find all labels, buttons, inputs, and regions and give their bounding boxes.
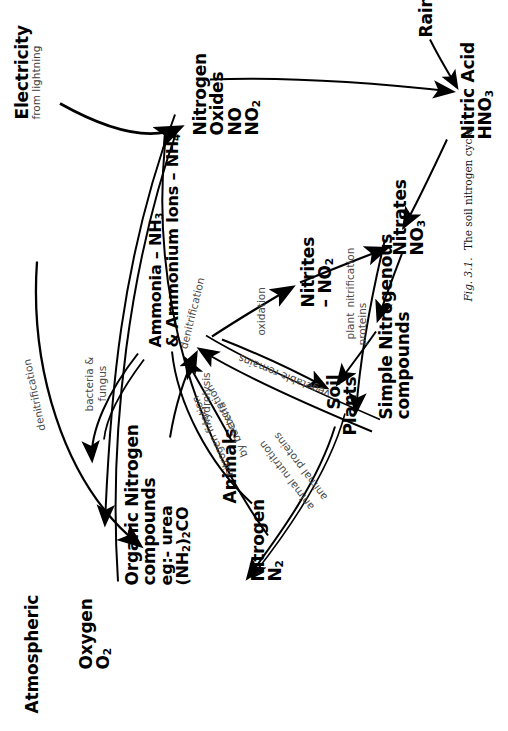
node-rain: Rain (418, 0, 435, 37)
edge-label-bacteria-fungus-2: fungus (96, 365, 108, 401)
node-electricity-line2: from lightning (31, 25, 42, 119)
node-simple-nitrogenous-line2: compounds (395, 233, 412, 419)
edge-label-oxidation: oxidation (255, 287, 267, 335)
node-nitric-acid: Nitric Acid HNO3 (460, 42, 495, 139)
node-nitrogen-oxides: Nitrogen Oxides NO NO2 (192, 53, 262, 135)
node-atmospheric-label: Atmospheric (24, 594, 41, 713)
node-nitrites: Nitrites – NO2 (300, 236, 335, 307)
figure-caption-text: The soil nitrogen cycle. (462, 125, 474, 249)
figure-caption: Fig. 3.1. The soil nitrogen cycle. (462, 125, 474, 301)
node-atmospheric: Atmospheric (24, 594, 41, 713)
node-oxygen: Oxygen O2 (78, 598, 113, 669)
edge-label-plant-proteins-1: plant (344, 312, 356, 339)
figure-caption-prefix: Fig. 3.1. (462, 257, 474, 301)
nitrogen-cycle-figure: Atmospheric Nitrogen N2 Oxygen O2 Electr… (0, 0, 508, 731)
node-ammonium-line: & Ammonium Ions – NH4+ (165, 126, 182, 347)
arrow-rain-to-nitric-acid (430, 39, 457, 87)
node-simple-nitrogenous: Simple Nitrogenous compounds (378, 233, 413, 419)
node-electricity: Electricity from lightning (14, 25, 42, 119)
node-rain-label: Rain (418, 0, 435, 37)
node-ammonia-ammonium: Ammonia – NH3 & Ammonium Ions – NH4+ (148, 126, 183, 347)
node-organic-nitrogen: Organic Nitrogen compounds eg:- urea (NH… (124, 424, 192, 585)
node-plants: Plants (342, 376, 359, 435)
node-nitrogen-oxides-line4: NO2 (244, 53, 262, 135)
edge-label-plant-proteins-2: proteins (356, 302, 368, 345)
edge-label-nitrification: nitrification (344, 247, 356, 307)
node-nitrogen-line2: N2 (267, 499, 285, 581)
node-nitrogen: Nitrogen N2 (250, 499, 285, 581)
figure-page: Atmospheric Nitrogen N2 Oxygen O2 Electr… (0, 0, 508, 731)
node-oxygen-line2: O2 (95, 598, 113, 669)
node-organic-nitrogen-line4: (NH2)2CO (175, 424, 192, 585)
node-plants-label: Plants (342, 376, 359, 435)
edge-label-bacteria-fungus-1: bacteria & (83, 356, 95, 411)
node-electricity-line1: Electricity (14, 25, 31, 119)
node-nitrites-line2: – NO2 (317, 236, 335, 307)
node-nitric-acid-line2: HNO3 (477, 42, 495, 139)
arrow-ammonia-to-nitrites (212, 287, 292, 336)
